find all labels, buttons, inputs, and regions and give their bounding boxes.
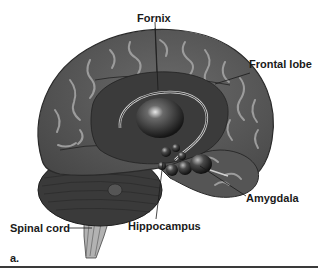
label-amygdala: Amygdala <box>246 192 299 204</box>
bottom-rule <box>0 266 318 268</box>
label-fornix: Fornix <box>137 12 171 24</box>
label-frontal-lobe: Frontal lobe <box>249 58 312 70</box>
label-spinal-cord: Spinal cord <box>10 222 70 234</box>
label-hippocampus: Hippocampus <box>128 220 201 232</box>
thalamus <box>136 98 184 138</box>
panel-label: a. <box>10 252 19 264</box>
amygdala <box>190 154 212 174</box>
